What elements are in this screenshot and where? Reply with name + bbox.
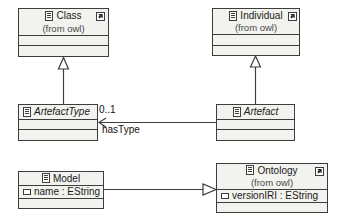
uml-class-icon (45, 11, 53, 21)
external-reference-badge-icon (96, 12, 105, 21)
individual-from-label: (from owl) (235, 23, 277, 33)
uml-class-icon (42, 173, 50, 183)
class-from-row: (from owl) (19, 22, 108, 34)
ontology-header-row: Ontology (217, 164, 327, 177)
individual-from-row: (from owl) (213, 22, 299, 34)
association-name-label-hastype: hasType (102, 124, 140, 135)
generalization-artefacttype-to-class (59, 58, 69, 105)
uml-class-class[interactable]: Class (from owl) (18, 8, 109, 57)
individual-attributes-compartment (213, 34, 299, 44)
artefacttype-attributes-compartment (19, 119, 97, 130)
uml-class-artefacttype[interactable]: ArtefactType (18, 104, 98, 141)
attribute-icon (221, 193, 229, 199)
multiplicity-label-0-1: 0..1 (99, 104, 116, 115)
class-from-label: (from owl) (42, 24, 84, 34)
class-name-label: Class (56, 10, 81, 21)
ontology-attribute-label: versionIRI : EString (232, 190, 318, 201)
uml-class-icon (229, 11, 237, 21)
artefact-operations-compartment (217, 129, 294, 140)
ontology-badge-slot (315, 167, 324, 176)
artefacttype-header-row: ArtefactType (19, 105, 97, 119)
model-operations-compartment (19, 198, 103, 208)
ontology-from-row: (from owl) (217, 177, 327, 189)
ontology-attribute-row[interactable]: versionIRI : EString (217, 189, 327, 202)
artefact-name-label: Artefact (244, 106, 278, 117)
class-badge-slot (96, 12, 105, 21)
uml-class-model[interactable]: Model name : EString (18, 171, 104, 209)
ontology-name-label: Ontology (257, 165, 297, 176)
uml-diagram-canvas: Class (from owl) Individual (0, 0, 342, 223)
artefact-attributes-compartment (217, 119, 294, 130)
class-attributes-compartment (19, 35, 108, 46)
individual-header-row: Individual (213, 9, 299, 22)
generalization-artefact-to-individual (251, 56, 261, 104)
artefacttype-name-label: ArtefactType (34, 106, 90, 117)
uml-class-icon (23, 107, 31, 117)
uml-class-ontology[interactable]: Ontology (from owl) versionIRI : EString (216, 163, 328, 213)
uml-class-artefact[interactable]: Artefact (216, 104, 295, 141)
ontology-operations-compartment (217, 202, 327, 212)
model-name-label: Model (53, 173, 80, 184)
uml-class-individual[interactable]: Individual (from owl) (212, 8, 300, 56)
uml-class-icon (233, 107, 241, 117)
artefacttype-operations-compartment (19, 129, 97, 140)
external-reference-badge-icon (288, 12, 297, 21)
ontology-from-label: (from owl) (251, 178, 293, 188)
model-attribute-label: name : EString (34, 186, 100, 197)
class-header-class: Class (19, 9, 108, 22)
individual-name-label: Individual (240, 10, 282, 21)
individual-badge-slot (288, 12, 297, 21)
artefact-header-row: Artefact (217, 105, 294, 119)
attribute-icon (23, 189, 31, 195)
external-reference-badge-icon (315, 167, 324, 176)
individual-operations-compartment (213, 45, 299, 55)
generalization-model-to-ontology (104, 184, 216, 195)
model-attribute-row[interactable]: name : EString (19, 185, 103, 198)
class-operations-compartment (19, 45, 108, 56)
uml-class-icon (246, 165, 254, 175)
model-header-row: Model (19, 172, 103, 185)
